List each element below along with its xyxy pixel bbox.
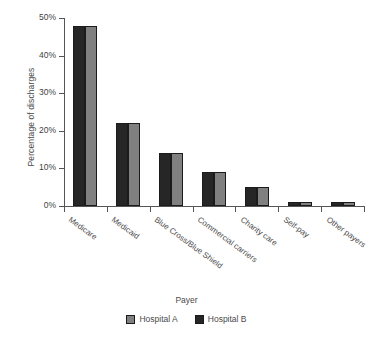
bar-hospital-b <box>159 153 171 206</box>
bar-hospital-a <box>257 187 269 206</box>
bar-hospital-b <box>116 123 128 206</box>
bar-group <box>331 18 355 206</box>
y-axis-tick-label: 30% <box>39 87 56 97</box>
y-axis-tick-label: 20% <box>39 125 56 135</box>
legend-entry[interactable]: Hospital A <box>126 314 177 324</box>
y-axis-tick: 20% <box>59 131 64 132</box>
y-axis-tick: 10% <box>59 168 64 169</box>
legend-label: Hospital A <box>139 314 177 324</box>
x-axis-tick-label: Self-pay <box>281 215 310 240</box>
plot-area: 0%10%20%30%40%50% MedicareMedicaidBlue C… <box>64 18 364 206</box>
chart-legend: Hospital AHospital B <box>0 314 373 324</box>
x-axis-title: Payer <box>0 295 373 305</box>
bar-hospital-b <box>202 172 214 206</box>
x-axis-tick <box>150 207 151 212</box>
x-axis-tick <box>278 207 279 212</box>
x-axis-tick <box>193 207 194 212</box>
bar-group <box>245 18 269 206</box>
bar-hospital-b <box>288 202 300 206</box>
legend-swatch-icon <box>195 315 204 324</box>
x-axis-tick-label: Charity care <box>239 215 279 248</box>
y-axis-tick: 50% <box>59 18 64 19</box>
x-axis-tick-label: Other payers <box>324 215 367 249</box>
bar-hospital-a <box>171 153 183 206</box>
y-axis-tick-label: 10% <box>39 162 56 172</box>
x-axis-tick <box>235 207 236 212</box>
y-axis-tick: 40% <box>59 56 64 57</box>
x-axis-tick-label: Medicaid <box>110 215 141 241</box>
y-axis-line <box>64 18 65 207</box>
bar-hospital-a <box>85 26 97 206</box>
bar-hospital-a <box>128 123 140 206</box>
x-axis-tick <box>64 207 65 212</box>
bar-hospital-a <box>300 202 312 206</box>
y-axis-tick: 30% <box>59 93 64 94</box>
y-axis-title: Percentage of discharges <box>26 37 36 197</box>
x-axis-tick-label: Medicare <box>67 215 99 242</box>
bar-group <box>288 18 312 206</box>
legend-label: Hospital B <box>208 314 247 324</box>
x-axis-tick <box>364 207 365 212</box>
bar-group <box>116 18 140 206</box>
y-axis-tick-label: 0% <box>44 200 56 210</box>
bar-hospital-a <box>214 172 226 206</box>
y-axis-tick-label: 50% <box>39 12 56 22</box>
bar-chart-figure: Percentage of discharges 0%10%20%30%40%5… <box>0 0 373 338</box>
x-axis-tick <box>107 207 108 212</box>
y-axis-tick-label: 40% <box>39 50 56 60</box>
bar-hospital-b <box>245 187 257 206</box>
bar-group <box>202 18 226 206</box>
x-axis-tick <box>321 207 322 212</box>
bar-group <box>159 18 183 206</box>
bar-hospital-b <box>331 202 343 206</box>
bar-hospital-b <box>73 26 85 206</box>
x-axis-line <box>64 206 365 207</box>
legend-swatch-icon <box>126 315 135 324</box>
legend-entry[interactable]: Hospital B <box>195 314 247 324</box>
bar-hospital-a <box>343 202 355 206</box>
bar-group <box>73 18 97 206</box>
